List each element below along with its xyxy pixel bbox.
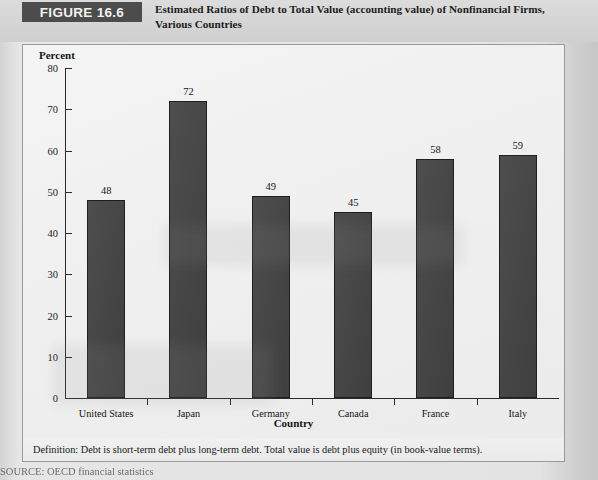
bar-group: 45Canada [312,68,394,398]
y-tick-label: 10 [48,351,59,362]
bar-value-label: 45 [348,197,359,208]
y-tick-mark [66,398,72,399]
y-tick-label: 30 [48,269,59,280]
x-tick-mark [477,399,478,405]
y-tick-label: 40 [48,228,59,239]
bar-group: 48United States [65,68,147,398]
plot-area: 01020304050607080 48United States72Japan… [65,68,559,398]
x-tick-mark [312,399,313,405]
figure-header: FIGURE 16.6 Estimated Ratios of Debt to … [0,0,598,42]
figure-number-banner: FIGURE 16.6 [22,2,142,22]
figure-title-line-1: Estimated Ratios of Debt to Total Value … [155,3,545,15]
x-tick-mark [147,399,148,405]
y-axis-title: Percent [39,49,75,61]
chart-panel: Percent 01020304050607080 48United State… [22,44,565,462]
y-tick-label: 20 [48,310,59,321]
figure-title-line-2: Various Countries [155,17,585,32]
bar[interactable] [416,159,454,398]
x-tick-mark [230,399,231,405]
bar-group: 59Italy [477,68,559,398]
footnote-text: Definition: Debt is short-term debt plus… [33,444,482,455]
figure-source: SOURCE: OECD financial statistics [0,466,154,477]
y-tick-label: 80 [48,63,59,74]
bar-value-label: 72 [183,86,194,97]
bar-value-label: 49 [266,181,277,192]
bar-group: 58France [394,68,476,398]
bar[interactable] [252,196,290,398]
figure-title: Estimated Ratios of Debt to Total Value … [155,2,585,31]
bar-group: 49Germany [230,68,312,398]
bar-value-label: 48 [101,185,112,196]
bar-value-label: 59 [513,140,524,151]
bar[interactable] [499,155,537,398]
figure-footnote: Definition: Debt is short-term debt plus… [22,438,565,462]
y-tick-label: 60 [48,145,59,156]
y-tick-label: 50 [48,186,59,197]
bar[interactable] [87,200,125,398]
bar[interactable] [334,212,372,398]
x-axis-title: Country [23,417,564,429]
y-tick-label: 0 [53,393,58,404]
x-tick-mark [394,399,395,405]
bar[interactable] [169,101,207,398]
bar-group: 72Japan [147,68,229,398]
source-text: SOURCE: OECD financial statistics [0,466,154,477]
y-tick-label: 70 [48,104,59,115]
bar-value-label: 58 [430,144,441,155]
